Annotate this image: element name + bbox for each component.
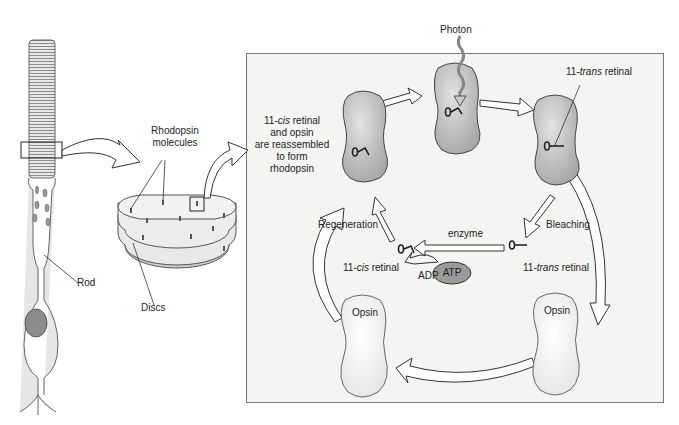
disc-stack [118, 160, 236, 305]
label-rod: Rod [77, 277, 95, 289]
label-regeneration: Regeneration [318, 219, 378, 231]
label-atp: ATP [433, 267, 471, 279]
diagram-graphics [0, 0, 679, 425]
label-opsin-right: Opsin [535, 305, 579, 317]
rhodopsin-regenerated [342, 91, 387, 182]
label-opsin-left: Opsin [343, 307, 387, 319]
label-enzyme: enzyme [448, 228, 483, 240]
zoom-arrow-1 [62, 139, 140, 168]
label-rhodopsin-molecules: Rhodopsin molecules [145, 125, 205, 149]
label-trans-retinal-top: 11-trans retinal [566, 66, 632, 78]
rhodopsin-bleached [533, 95, 579, 185]
label-discs: Discs [141, 302, 165, 314]
label-photon: Photon [440, 24, 472, 36]
rod-cell [20, 40, 78, 415]
label-cis-retinal: 11-cis retinal [343, 262, 399, 274]
label-trans-retinal: 11-trans retinal [523, 262, 589, 274]
zoom-arrow-2 [204, 142, 248, 198]
rhodopsin-proteins [342, 63, 579, 185]
label-bleaching: Bleaching [546, 219, 590, 231]
label-reassembly-note: 11-cis retinal and opsin are reassembled… [252, 115, 332, 175]
